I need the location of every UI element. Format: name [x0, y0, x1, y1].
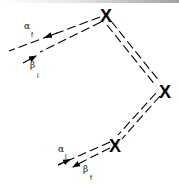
arrow-alpha-f-icon	[45, 33, 57, 38]
line-beta-i	[23, 22, 101, 63]
propagator-right-bottom	[118, 93, 160, 139]
label-alpha-i: α	[58, 144, 64, 154]
propagator-top-right	[107, 21, 160, 86]
vertex-right: X	[159, 82, 171, 102]
label-alpha-f: α	[24, 21, 30, 31]
label-alpha-f-sub: f	[31, 31, 33, 38]
label-beta-f-sub: f	[90, 174, 92, 181]
label-beta-f: β	[83, 164, 88, 174]
line-beta-f	[73, 148, 110, 167]
line-alpha-f	[9, 17, 100, 51]
diagram-canvas: X X X α f β i α i β f	[0, 0, 179, 193]
label-alpha-i-sub: i	[65, 153, 67, 160]
vertex-bottom: X	[109, 136, 121, 156]
arrow-beta-f-icon	[73, 162, 82, 167]
arrow-alpha-i-icon	[58, 160, 70, 166]
label-beta-i: β	[30, 60, 35, 70]
label-beta-i-sub: i	[37, 72, 39, 79]
vertex-top: X	[100, 6, 112, 26]
